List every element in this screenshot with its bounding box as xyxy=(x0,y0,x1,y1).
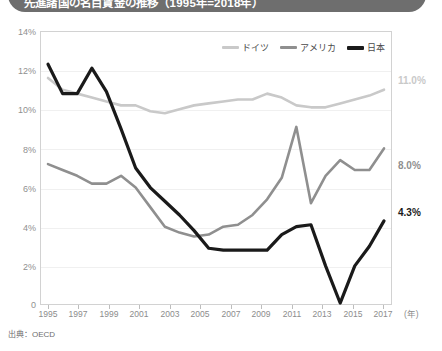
source-note: 出典：OECD xyxy=(8,331,55,339)
y-tick-4: 4% xyxy=(2,224,36,233)
y-tick-12: 12% xyxy=(2,67,36,76)
chart-title-banner: 先進諸国の名目賃金の推移（1995年=2018年） xyxy=(8,0,426,12)
y-tick-8: 8% xyxy=(2,146,36,155)
series-line-america xyxy=(48,127,384,237)
page-title: 先進諸国の名目賃金の推移（1995年=2018年） xyxy=(24,0,263,10)
series-layer xyxy=(40,31,392,305)
x-tick-2001: 2001 xyxy=(122,310,156,319)
x-tick-1995: 1995 xyxy=(31,310,65,319)
x-tick-2017: 2017 xyxy=(366,310,400,319)
y-tick-6: 6% xyxy=(2,185,36,194)
x-tick-2011: 2011 xyxy=(275,310,309,319)
x-tick-2009: 2009 xyxy=(244,310,278,319)
x-tick-2007: 2007 xyxy=(214,310,248,319)
series-line-germany xyxy=(48,78,384,113)
x-tick-1999: 1999 xyxy=(92,310,126,319)
x-tick-1997: 1997 xyxy=(61,310,95,319)
x-tick-2015: 2015 xyxy=(336,310,370,319)
x-tick-2013: 2013 xyxy=(305,310,339,319)
x-tick-2005: 2005 xyxy=(183,310,217,319)
end-label-japan: 4.3% xyxy=(398,208,421,218)
end-label-america: 8.0% xyxy=(398,161,421,171)
y-tick-2: 2% xyxy=(2,263,36,272)
x-tick-2003: 2003 xyxy=(153,310,187,319)
end-label-germany: 11.0% xyxy=(398,76,426,86)
x-axis-unit-label: (年) xyxy=(404,310,419,319)
y-tick-14: 14% xyxy=(2,28,36,37)
chart-figure: 先進諸国の名目賃金の推移（1995年=2018年） 14% 12% 10% 8%… xyxy=(0,0,442,351)
y-tick-10: 10% xyxy=(2,106,36,115)
y-tick-0: 0 xyxy=(2,301,36,310)
